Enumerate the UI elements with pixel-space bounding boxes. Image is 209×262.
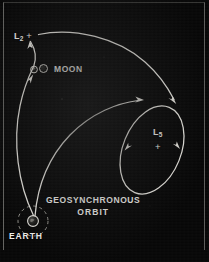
label-geosynchronous-orbit: GEOSYNCHRONOUS ORBIT [46,196,140,216]
label-earth-text: EARTH [9,231,43,241]
trajectory-l2-to-l5-arrowhead [168,96,176,104]
l5-orbit-arrowhead-left [125,143,133,151]
label-geo-line1: GEOSYNCHRONOUS [46,195,140,205]
trajectory-earth-to-l5-arrowhead [135,97,144,103]
label-l2: L2 + [14,31,32,42]
plate-speck [61,98,63,100]
l5-orbit-arrowhead-right [173,141,180,149]
label-earth: EARTH [9,232,43,241]
plate-speck [149,205,150,206]
l2-plus-marker: + [26,30,32,41]
label-geo-line2: ORBIT [46,208,140,217]
label-moon: MOON [39,64,83,74]
trajectory-earth-to-l2 [17,42,35,216]
l5-libration-orbit-path [108,96,196,203]
label-moon-text: MOON [54,64,83,74]
plate-speck [103,56,104,57]
label-l5-subscript: 5 [159,131,163,138]
moon-symbol-icon [39,64,48,73]
label-l5: L5 + [153,128,162,152]
trajectory-diagram: L2 + MOON L5 + GEOSYNCHRONOUS ORBIT EART… [0,0,209,262]
label-l2-subscript: 2 [20,35,24,42]
l5-plus-marker: + [155,142,162,151]
